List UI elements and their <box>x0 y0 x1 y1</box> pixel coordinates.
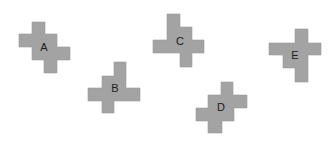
shape-b: B <box>88 62 140 113</box>
shape-d-label: D <box>217 101 225 113</box>
shape-c-label: C <box>176 35 184 47</box>
pentomino-figure: A B C D E <box>0 0 332 141</box>
shape-a: A <box>19 22 70 73</box>
shape-c: C <box>153 14 204 67</box>
shape-b-label: B <box>111 82 118 94</box>
shape-a-label: A <box>40 41 48 53</box>
shapes-canvas: A B C D E <box>0 0 332 141</box>
shape-e-label: E <box>291 49 298 61</box>
shape-d: D <box>196 82 247 133</box>
shape-e: E <box>269 29 321 82</box>
